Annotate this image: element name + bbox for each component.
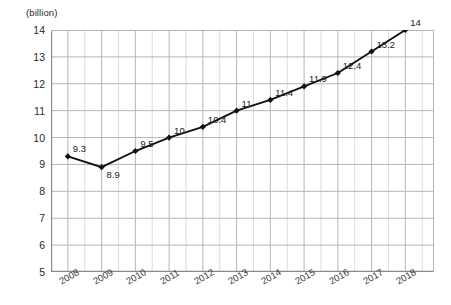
data-point-label: 10.4	[208, 114, 227, 125]
data-point-label: 10	[174, 125, 185, 136]
y-axis-tick-label: 11	[34, 105, 45, 117]
data-point-label: 11.4	[275, 87, 293, 98]
y-axis-tick-label: 7	[39, 212, 45, 224]
y-axis-tick-label: 13	[33, 51, 45, 63]
data-point-label: 13.2	[377, 39, 396, 50]
plot-svg	[51, 30, 434, 272]
line-chart: (billion) 141312111098765 9.38.99.51010.…	[0, 0, 451, 305]
y-axis-tick-label: 12	[33, 78, 45, 90]
y-axis-tick-label: 10	[33, 132, 45, 144]
data-point-label: 9.5	[140, 138, 153, 149]
y-axis-tick-label: 5	[39, 266, 45, 278]
data-point-label: 8.9	[107, 169, 120, 180]
y-axis-tick-label: 9	[39, 158, 45, 170]
data-point-label: 11.9	[309, 73, 327, 84]
y-axis-tick-label: 14	[33, 24, 45, 36]
y-axis-tick-label: 8	[39, 185, 45, 197]
y-axis-unit-label: (billion)	[26, 7, 58, 18]
data-point-label: 12.4	[343, 60, 362, 71]
x-axis-tick-labels: 2008200920102011201220132014201520162017…	[51, 277, 451, 305]
y-axis-tick-label: 6	[39, 239, 45, 251]
y-axis-tick-labels: 141312111098765	[0, 30, 45, 272]
data-point-label: 11	[242, 98, 252, 109]
data-point-label: 14	[410, 17, 421, 28]
data-point-label: 9.3	[73, 143, 86, 154]
plot-area: 9.38.99.51010.41111.411.912.413.214	[51, 30, 434, 272]
